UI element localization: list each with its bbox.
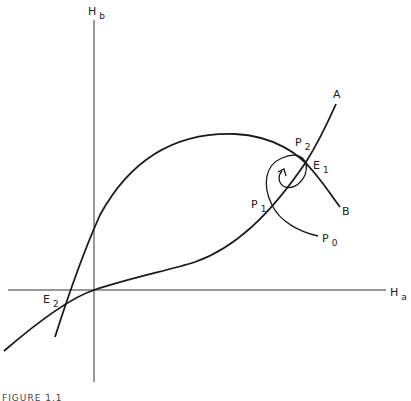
y-axis-label-sub: b (99, 11, 105, 21)
x-axis-label-main: H (390, 286, 398, 299)
x-axis-label: Ha (390, 287, 407, 298)
p2-main: P (295, 136, 302, 149)
e1-main: E (313, 159, 320, 172)
p2-sub: 2 (305, 142, 311, 152)
point-e1-label: E1 (313, 160, 329, 171)
curve-a-label: A (333, 89, 341, 100)
p1-main: P (251, 198, 258, 211)
x-axis-label-sub: a (401, 292, 407, 302)
curve-b-label: B (342, 206, 350, 217)
point-p1-label: P1 (251, 199, 266, 210)
p0-main: P (322, 232, 329, 245)
e1-sub: 1 (323, 165, 329, 175)
e2-sub: 2 (53, 299, 59, 309)
diagram-canvas (0, 0, 411, 401)
figure-caption: FIGURE 1.1 (2, 393, 63, 401)
curve-a (4, 104, 336, 351)
curve-b (55, 134, 340, 337)
point-p2-label: P2 (295, 137, 310, 148)
y-axis-label-main: H (88, 5, 96, 18)
p1-sub: 1 (261, 204, 267, 214)
e2-main: E (43, 293, 50, 306)
y-axis-label: Hb (88, 6, 105, 17)
p0-sub: 0 (332, 238, 338, 248)
point-p0-label: P0 (322, 233, 337, 244)
point-e2-label: E2 (43, 294, 59, 305)
